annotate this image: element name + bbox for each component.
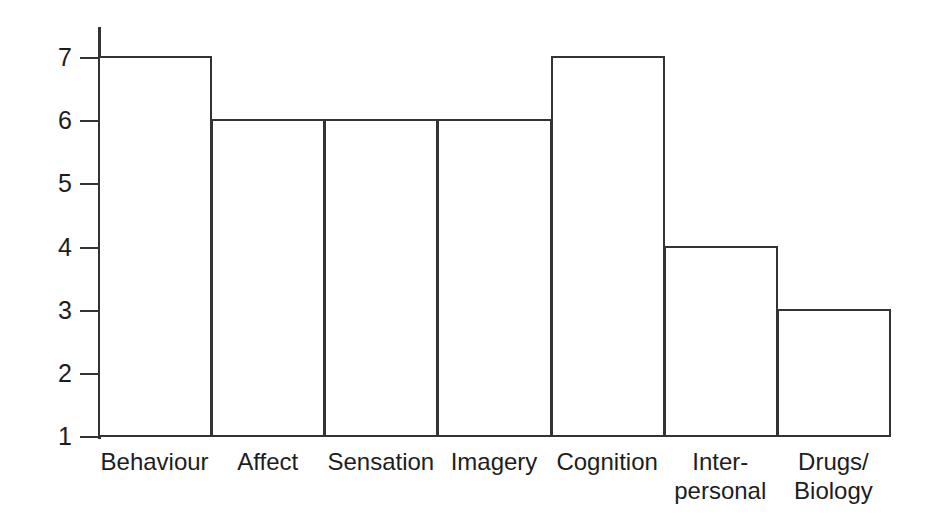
bar-chart: 7654321 BehaviourAffectSensationImageryC… bbox=[0, 0, 935, 523]
x-axis-label: Imagery bbox=[437, 447, 550, 476]
x-axis-label: Affect bbox=[211, 447, 324, 476]
x-axis-label: Sensation bbox=[324, 447, 437, 476]
plot-area: 7654321 BehaviourAffectSensationImageryC… bbox=[0, 0, 935, 523]
x-axis-label: Drugs/ Biology bbox=[777, 447, 890, 505]
x-axis-label: Inter- personal bbox=[664, 447, 777, 505]
x-axis-labels: BehaviourAffectSensationImageryCognition… bbox=[0, 0, 935, 523]
x-axis-label: Behaviour bbox=[98, 447, 211, 476]
x-axis-label: Cognition bbox=[551, 447, 664, 476]
